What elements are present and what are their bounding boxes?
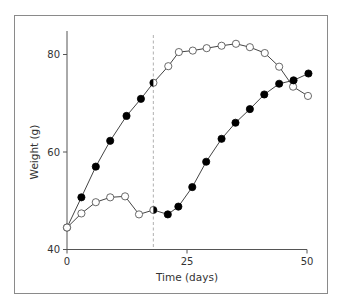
- data-point-open: [276, 63, 283, 70]
- y-tick-label: 80: [47, 49, 60, 60]
- data-point-open: [218, 42, 225, 49]
- data-point-filled: [246, 106, 253, 113]
- data-point-open: [63, 224, 70, 231]
- data-point-filled: [305, 70, 312, 77]
- data-point-filled: [92, 163, 99, 170]
- data-point-filled: [164, 211, 171, 218]
- data-point-open: [175, 48, 182, 55]
- x-axis-label: Time (days): [155, 271, 218, 283]
- data-point-filled: [137, 95, 144, 102]
- data-point-filled: [175, 203, 182, 210]
- data-point-half: [150, 206, 157, 213]
- data-point-half: [150, 79, 157, 86]
- data-point-open: [232, 40, 239, 47]
- data-point-open: [107, 194, 114, 201]
- data-point-open: [165, 63, 172, 70]
- data-point-open: [189, 47, 196, 54]
- y-tick-label: 60: [47, 147, 60, 158]
- data-point-filled: [189, 184, 196, 191]
- data-point-filled: [78, 194, 85, 201]
- data-point-filled: [261, 91, 268, 98]
- data-point-open: [261, 49, 268, 56]
- data-point-open: [135, 211, 142, 218]
- x-tick-label: 0: [64, 256, 70, 267]
- y-axis-label: Weight (g): [28, 125, 40, 180]
- x-tick-label: 25: [181, 256, 194, 267]
- data-point-filled: [123, 112, 130, 119]
- data-point-open: [92, 199, 99, 206]
- series-group: [63, 40, 312, 231]
- data-point-filled: [290, 77, 297, 84]
- line-chart: 40608002550 Time (days) Weight (g): [0, 0, 345, 308]
- data-point-filled: [232, 119, 239, 126]
- data-point-filled: [276, 80, 283, 87]
- axes: 40608002550: [47, 31, 313, 267]
- data-point-open: [121, 193, 128, 200]
- series-b: [63, 70, 312, 231]
- data-point-open: [78, 210, 85, 217]
- x-tick-label: 50: [301, 256, 314, 267]
- data-point-filled: [218, 135, 225, 142]
- data-point-open: [203, 45, 210, 52]
- data-point-open: [304, 92, 311, 99]
- y-tick-label: 40: [47, 244, 60, 255]
- series-a: [63, 40, 311, 231]
- series-line: [67, 74, 308, 228]
- data-point-filled: [107, 137, 114, 144]
- data-point-filled: [203, 158, 210, 165]
- data-point-open: [246, 44, 253, 51]
